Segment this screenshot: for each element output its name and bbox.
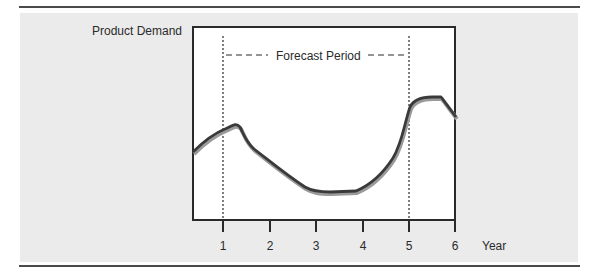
tick-label-4: 4 [353, 239, 373, 253]
tick-label-3: 3 [306, 239, 326, 253]
tick-label-1: 1 [213, 239, 233, 253]
demand-chart [0, 0, 594, 279]
forecast-period-label: Forecast Period [276, 49, 361, 63]
tick-label-6: 6 [445, 239, 465, 253]
tick-label-2: 2 [260, 239, 280, 253]
tick-label-5: 5 [399, 239, 419, 253]
x-axis-label: Year [482, 239, 506, 253]
bottom-rule [19, 265, 580, 267]
x-axis-ticks [223, 220, 455, 232]
